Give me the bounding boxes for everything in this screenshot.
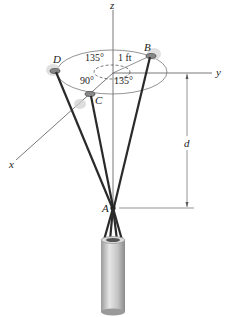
cable-ad xyxy=(56,72,112,207)
cylinder-weight xyxy=(101,237,125,316)
dimension-arrow-bottom xyxy=(186,202,189,207)
dimension-label: d xyxy=(184,137,190,149)
angle-db: 135° xyxy=(85,52,104,63)
radius-label: 1 ft xyxy=(118,52,132,63)
cable-ac xyxy=(91,96,113,207)
y-axis-label: y xyxy=(215,66,221,78)
shadow-blob xyxy=(74,99,86,109)
point-d-label: D xyxy=(52,53,61,65)
x-axis xyxy=(16,73,113,160)
cable-diagram: z y x 135° 1 ft 90° 135° D B C A d xyxy=(0,0,226,317)
x-axis-label: x xyxy=(8,158,14,170)
point-c-label: C xyxy=(95,94,103,106)
point-b-label: B xyxy=(144,41,151,53)
hook-c xyxy=(85,92,95,97)
angle-cb: 135° xyxy=(114,75,133,86)
z-axis-label: z xyxy=(109,0,115,11)
point-a-label: A xyxy=(101,202,109,214)
dimension-arrow-top xyxy=(186,74,189,79)
angle-dc: 90° xyxy=(80,75,94,86)
